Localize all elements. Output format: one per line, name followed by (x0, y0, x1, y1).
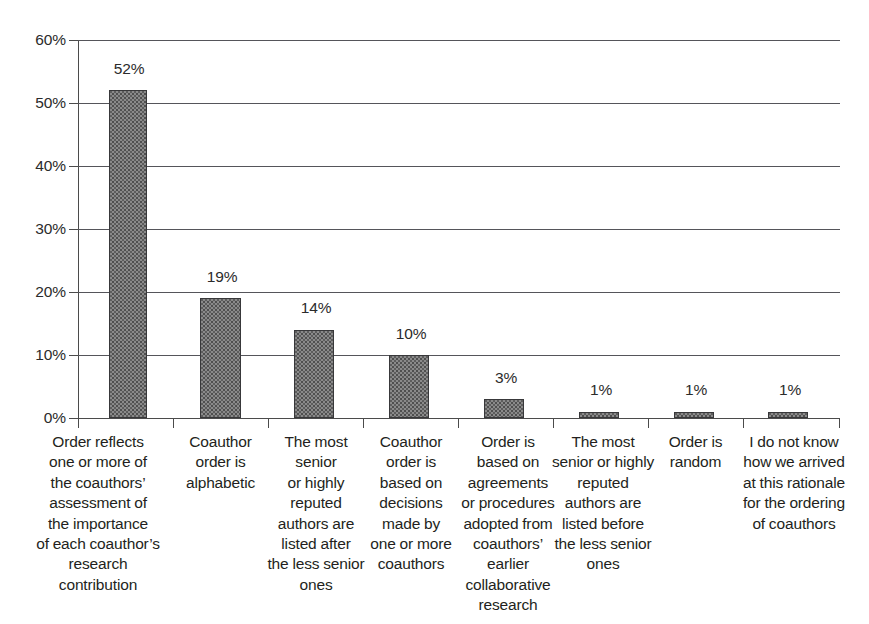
bar-value-6: 1% (551, 381, 651, 399)
y-tick-label-30: 30% (35, 220, 66, 238)
x-tick-5 (553, 418, 554, 428)
category-label-3: The mostsenioror highlyreputedauthors ar… (266, 432, 366, 595)
x-tick-8 (839, 418, 840, 428)
gridline-60 (78, 40, 840, 41)
y-tick-10 (69, 355, 78, 356)
y-tick-label-50: 50% (35, 94, 66, 112)
bar-senior-listed-after[interactable] (294, 330, 334, 418)
x-axis-line (78, 418, 840, 419)
plot-area (78, 40, 840, 418)
y-tick-40 (69, 166, 78, 167)
bar-value-8: 1% (740, 381, 840, 399)
bar-order-reflects-contribution[interactable] (109, 90, 147, 418)
bar-random[interactable] (674, 412, 714, 418)
x-tick-1 (173, 418, 174, 428)
y-tick-label-0: 0% (44, 409, 66, 427)
y-tick-50 (69, 103, 78, 104)
y-tick-30 (69, 229, 78, 230)
bar-alphabetic[interactable] (200, 298, 241, 418)
y-tick-20 (69, 292, 78, 293)
category-label-2: Coauthororder isalphabetic (173, 432, 268, 493)
category-label-7: Order israndom (648, 432, 743, 473)
gridline-20 (78, 292, 840, 293)
y-tick-label-40: 40% (35, 157, 66, 175)
gridline-10 (78, 355, 840, 356)
gridline-50 (78, 103, 840, 104)
bar-prior-agreements[interactable] (484, 399, 524, 418)
bar-decisions-by-coauthors[interactable] (389, 355, 429, 418)
bar-value-2: 19% (172, 268, 272, 286)
category-label-4: Coauthororder isbased ondecisionsmade by… (361, 432, 461, 575)
category-label-8: I do not knowhow we arrivedat this ratio… (731, 432, 857, 534)
bar-value-3: 14% (266, 299, 366, 317)
x-tick-4 (458, 418, 459, 428)
bar-value-5: 3% (456, 369, 556, 387)
category-label-1: Order reflectsone or more ofthe coauthor… (34, 432, 162, 595)
bar-value-1: 52% (79, 60, 179, 78)
gridline-30 (78, 229, 840, 230)
bar-value-7: 1% (646, 381, 746, 399)
chart-page: 60% 50% 40% 30% 20% 10% 0% (0, 0, 869, 624)
y-tick-label-10: 10% (35, 346, 66, 364)
bar-do-not-know[interactable] (768, 412, 808, 418)
y-tick-label-60: 60% (35, 31, 66, 49)
bar-value-4: 10% (361, 325, 461, 343)
x-tick-2 (268, 418, 269, 428)
x-tick-3 (363, 418, 364, 428)
gridline-40 (78, 166, 840, 167)
x-tick-6 (648, 418, 649, 428)
y-tick-0 (69, 418, 78, 419)
bar-senior-listed-before[interactable] (579, 412, 619, 418)
y-tick-label-20: 20% (35, 283, 66, 301)
y-axis-tick-labels: 60% 50% 40% 30% 20% 10% 0% (0, 40, 66, 419)
x-tick-7 (743, 418, 744, 428)
category-label-6: The mostsenior or highlyreputedauthors a… (547, 432, 659, 575)
x-tick-0 (78, 418, 79, 428)
y-tick-60 (69, 40, 78, 41)
